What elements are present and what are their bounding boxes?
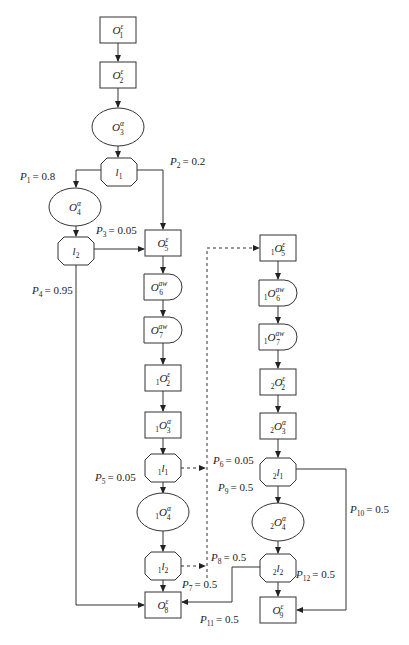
- node-l2: l2: [58, 237, 94, 265]
- node-1O6: 1Oaw6: [259, 280, 297, 306]
- node-O6: Oaw6: [144, 274, 182, 300]
- label-p10: P10= 0.5: [349, 503, 389, 518]
- node-1O5: 1Oε5: [260, 235, 296, 261]
- node-1l2: 1l2: [145, 552, 181, 580]
- node-O5: Oε5: [145, 230, 181, 256]
- edge-dashed-to-1O5: [207, 248, 259, 578]
- node-2O4: 2Oα4: [252, 503, 304, 541]
- node-1O4: 1Oα4: [137, 493, 189, 531]
- node-O3: Oα3: [92, 108, 144, 146]
- label-p11: P11= 0.5: [199, 613, 239, 628]
- label-p12: P12= 0.5: [295, 568, 335, 583]
- edge-l2-O8: [76, 265, 144, 605]
- edge-l1-O5: [137, 170, 163, 229]
- node-O4: Oα4: [49, 188, 101, 226]
- label-p8: P8= 0.5: [210, 551, 247, 566]
- node-1O2: 1Oε2: [145, 365, 181, 391]
- label-p5: P5= 0.05: [94, 471, 136, 486]
- label-p1: P1= 0.8: [19, 170, 56, 185]
- node-O8: Oε8: [145, 592, 181, 618]
- node-1O7: 1Oaw7: [259, 324, 297, 350]
- node-O1: Oε1: [100, 17, 136, 43]
- label-p3: P3= 0.05: [95, 224, 137, 239]
- node-1O3: 1Oα3: [145, 412, 181, 438]
- node-2l1: 2l1: [260, 458, 296, 486]
- label-p6: P6= 0.05: [212, 454, 254, 469]
- edge-l1-O4: [76, 170, 101, 187]
- label-p2: P2= 0.2: [169, 155, 205, 170]
- edge-2l1-O9: [296, 469, 346, 610]
- node-2l2: 2l2: [260, 554, 296, 582]
- node-O9: Oε9: [260, 597, 296, 623]
- label-p9: P9= 0.5: [217, 481, 254, 496]
- flowchart-canvas: Oε1Oε2Oα3l1Oα4l2Oε5Oaw6Oaw71Oε21Oα31l11O…: [0, 0, 409, 645]
- label-p7: P7= 0.5: [181, 578, 218, 593]
- node-2O2: 2Oε2: [260, 369, 296, 395]
- node-1l1: 1l1: [145, 454, 181, 482]
- nodes: Oε1Oε2Oα3l1Oα4l2Oε5Oaw6Oaw71Oε21Oα31l11O…: [49, 17, 304, 623]
- node-2O3: 2Oα3: [260, 413, 296, 439]
- node-O2: Oε2: [100, 62, 136, 88]
- node-l1: l1: [101, 158, 137, 186]
- node-O7: Oaw7: [144, 317, 182, 343]
- label-p4: P4= 0.95: [31, 284, 73, 299]
